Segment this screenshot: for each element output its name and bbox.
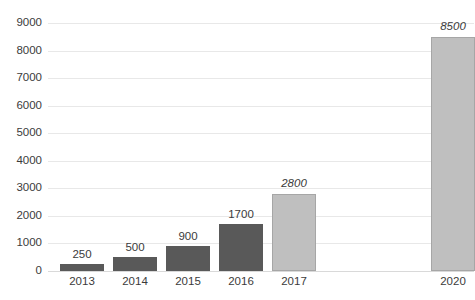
bar-2016[interactable] [219,224,263,271]
bar-value-2013: 250 [72,249,91,261]
gridline-zero-baseline [48,271,474,272]
y-axis-tick-label: 4000 [2,155,42,167]
bar-slot-2014: 500 [113,23,157,271]
x-axis-tick-label-2013: 2013 [69,276,95,288]
bar-slot-2015: 900 [166,23,210,271]
y-axis-tick-label: 3000 [2,183,42,195]
bar-slot-2017: 2800 [272,23,316,271]
bar-value-2014: 500 [125,242,144,254]
bar-2015[interactable] [166,246,210,271]
bar-slot-2020: 8500 [431,23,475,271]
y-axis-tick-label: 7000 [2,72,42,84]
bar-value-2016: 1700 [228,209,254,221]
x-axis-tick-label-2017: 2017 [281,276,307,288]
y-axis-tick-label: 9000 [2,17,42,29]
bar-slot-2016: 1700 [219,23,263,271]
bar-2013[interactable] [60,264,104,271]
y-axis-tick-label: 0 [2,265,42,277]
bar-2020[interactable] [431,37,475,271]
bar-value-2015: 900 [178,231,197,243]
x-axis-tick-label-2016: 2016 [228,276,254,288]
bar-slot-2019 [378,23,422,271]
x-axis-tick-label-2015: 2015 [175,276,201,288]
bar-slot-2018 [325,23,369,271]
x-axis-tick-label-2014: 2014 [122,276,148,288]
x-axis-tick-label-2020: 2020 [440,276,466,288]
y-axis-tick-label: 1000 [2,238,42,250]
bar-2017[interactable] [272,194,316,271]
bar-value-2017: 2800 [281,178,307,190]
y-axis-tick-label: 2000 [2,210,42,222]
y-axis-tick-label: 8000 [2,45,42,57]
y-axis-tick-label: 5000 [2,127,42,139]
plot-area: 250 500 900 1700 2800 8500 [48,23,474,271]
bar-value-2020: 8500 [440,21,466,33]
bar-2014[interactable] [113,257,157,271]
bar-slot-2013: 250 [60,23,104,271]
y-axis-tick-label: 6000 [2,100,42,112]
